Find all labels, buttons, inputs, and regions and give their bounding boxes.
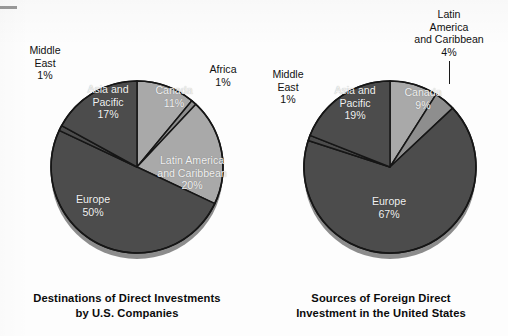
label-middle-east: Middle East 1% <box>257 68 319 106</box>
caption-sources-line2: Investment in the United States <box>254 306 508 321</box>
chart-sources: Middle East 1% Asia and Pacific 19% Cana… <box>254 0 508 336</box>
label-latin-america-line1: Latin America <box>140 154 244 167</box>
label-latin-america-line3: and Caribbean <box>390 33 508 46</box>
label-latin-america-value: 4% <box>390 46 508 59</box>
label-asia-pacific-line2: Pacific <box>70 96 146 109</box>
label-africa: Africa 1% <box>198 63 248 88</box>
label-europe: Europe 50% <box>58 193 128 218</box>
label-middle-east-line2: East <box>257 81 319 94</box>
label-latin-america-line1: Latin <box>390 8 508 21</box>
label-europe-name: Europe <box>58 193 128 206</box>
label-middle-east-line1: Middle <box>257 68 319 81</box>
label-africa-name: Africa <box>198 63 248 76</box>
label-asia-pacific-line1: Asia and <box>317 84 393 97</box>
label-asia-pacific-line1: Asia and <box>70 83 146 96</box>
label-latin-america-line2: America <box>390 21 508 34</box>
chart-destinations: Middle East 1% Africa 1% Asia and Pacifi… <box>0 0 254 336</box>
label-middle-east-line1: Middle <box>14 44 76 57</box>
label-latin-america-value: 20% <box>140 179 244 192</box>
label-africa-value: 1% <box>198 76 248 89</box>
label-europe-value: 50% <box>58 206 128 219</box>
figure-canvas: Middle East 1% Africa 1% Asia and Pacifi… <box>0 0 508 336</box>
label-middle-east-value: 1% <box>257 93 319 106</box>
caption-sources-line1: Sources of Foreign Direct <box>254 291 508 306</box>
label-middle-east-line2: East <box>14 57 76 70</box>
label-canada-value: 11% <box>144 97 204 110</box>
caption-sources: Sources of Foreign Direct Investment in … <box>254 291 508 320</box>
leader-line-latin-america <box>449 61 450 84</box>
label-asia-pacific: Asia and Pacific 19% <box>317 84 393 122</box>
label-asia-pacific: Asia and Pacific 17% <box>70 83 146 121</box>
label-latin-america: Latin America and Caribbean 20% <box>140 154 244 192</box>
caption-destinations-line2: by U.S. Companies <box>0 306 254 321</box>
label-asia-pacific-value: 19% <box>317 109 393 122</box>
caption-destinations: Destinations of Direct Investments by U.… <box>0 291 254 320</box>
label-europe: Europe 67% <box>354 195 424 220</box>
label-canada: Canada 11% <box>144 84 204 109</box>
label-canada: Canada 9% <box>394 86 452 111</box>
label-asia-pacific-line2: Pacific <box>317 97 393 110</box>
caption-destinations-line1: Destinations of Direct Investments <box>0 291 254 306</box>
label-canada-name: Canada <box>394 86 452 99</box>
label-middle-east: Middle East 1% <box>14 44 76 82</box>
label-europe-value: 67% <box>354 208 424 221</box>
label-latin-america: Latin America and Caribbean 4% <box>390 8 508 58</box>
label-europe-name: Europe <box>354 195 424 208</box>
label-canada-name: Canada <box>144 84 204 97</box>
label-latin-america-line2: and Caribbean <box>140 167 244 180</box>
label-asia-pacific-value: 17% <box>70 108 146 121</box>
label-middle-east-value: 1% <box>14 69 76 82</box>
label-canada-value: 9% <box>394 99 452 112</box>
